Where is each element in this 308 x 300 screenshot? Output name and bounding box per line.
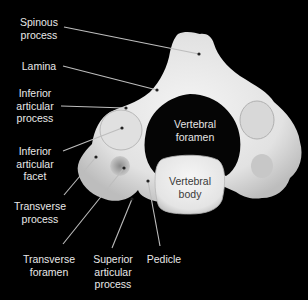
label-inferior-articular-facet: Inferior articular facet [10, 145, 60, 183]
right-articular-facet-shape [240, 101, 274, 139]
label-transverse-foramen: Transverse foramen [20, 253, 78, 278]
label-inferior-articular-process: Inferior articular process [10, 87, 60, 125]
label-vertebral-foramen: Vertebral foramen [166, 118, 224, 143]
right-transverse-foramen-shape [251, 154, 273, 178]
leader-lamina [63, 66, 157, 90]
label-vertebral-body: Vertebral body [160, 175, 220, 200]
label-lamina: Lamina [18, 60, 60, 73]
leader-inferior-articular-process [61, 106, 126, 108]
leader-superior-articular-process [112, 199, 132, 248]
label-superior-articular-process: Superior articular process [88, 253, 138, 291]
label-transverse-process: Transverse process [12, 200, 68, 225]
label-spinous-process: Spinous process [14, 16, 64, 41]
inferior-articular-facet-shape [100, 110, 142, 150]
label-pedicle: Pedicle [144, 253, 184, 266]
